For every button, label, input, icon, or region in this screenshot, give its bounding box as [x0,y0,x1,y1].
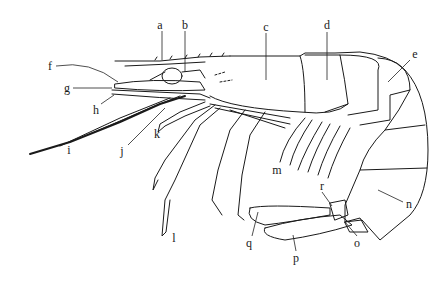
shrimp-diagram: a b c d e f g h i j k l m n o p q r [0,0,441,282]
label-l: l [172,232,175,244]
label-g: g [64,82,70,94]
eye-stalk [150,70,205,80]
rostrum [115,53,230,66]
label-j: j [120,145,123,157]
label-e: e [412,48,417,60]
label-o: o [354,237,360,249]
carapace [210,52,428,240]
label-h: h [93,104,99,116]
label-b: b [182,19,188,31]
tail-fan [249,200,368,240]
antennules [112,80,210,100]
label-n: n [406,198,412,210]
shrimp-illustration [0,0,441,282]
label-p: p [293,252,299,264]
leader-lines [56,31,410,251]
pleopods [280,118,350,178]
antenna [30,96,185,154]
label-k: k [154,128,160,140]
label-q: q [246,237,252,249]
label-d: d [324,19,330,31]
eye [162,68,182,84]
label-f: f [48,60,52,72]
label-r: r [320,180,324,192]
label-a: a [157,19,162,31]
label-c: c [263,21,268,33]
walking-legs [153,102,290,236]
label-i: i [67,144,70,156]
label-m: m [272,164,281,176]
